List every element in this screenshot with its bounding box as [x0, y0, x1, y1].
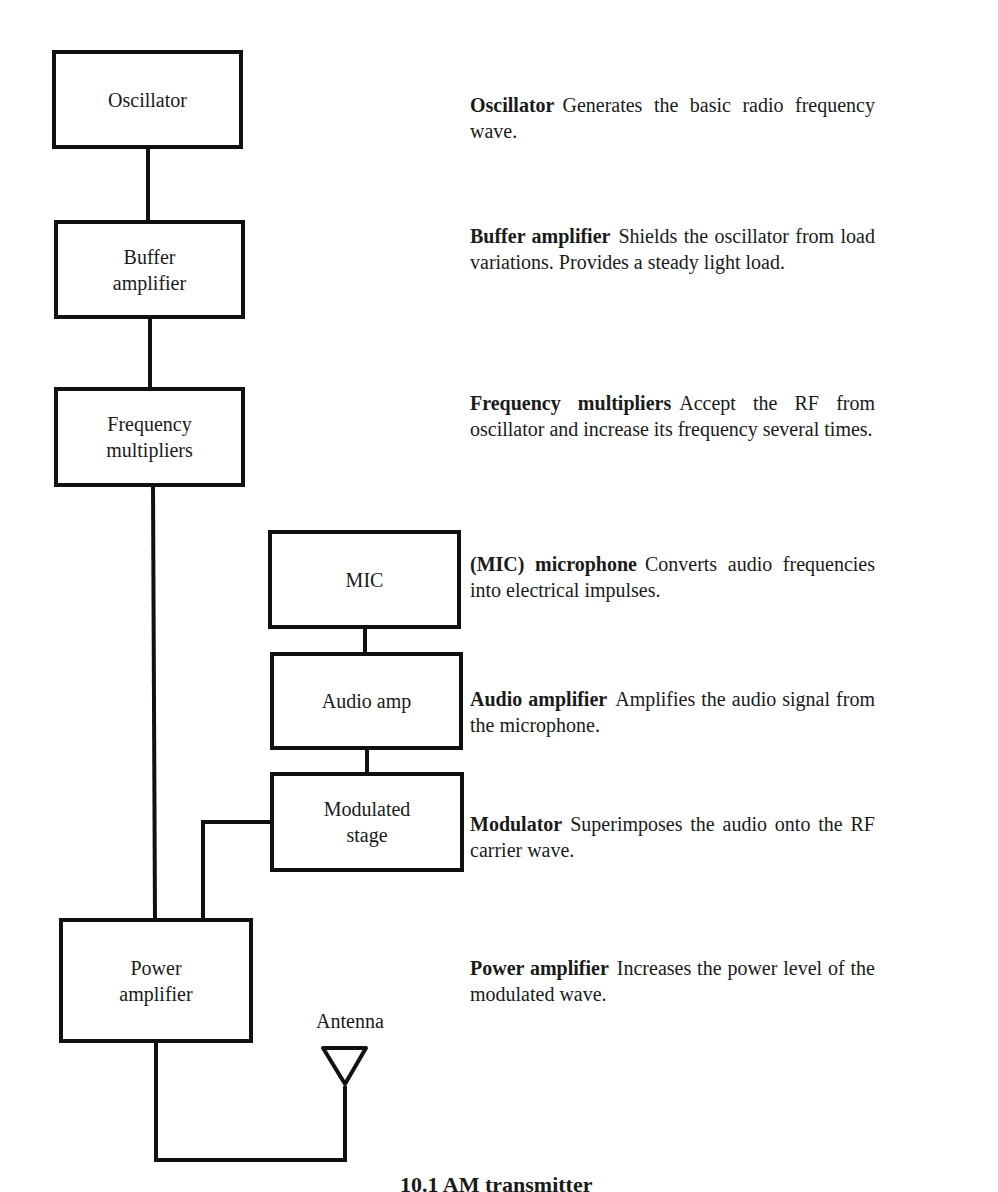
- description-power-amplifier: Power amplifierIncreases the power level…: [470, 955, 875, 1007]
- antenna-icon: [323, 1048, 366, 1086]
- description-buffer-amplifier: Buffer amplifierShields the oscillator f…: [470, 223, 875, 275]
- description-term: (MIC) microphone: [470, 553, 637, 575]
- block-power-amplifier: Power amplifier: [59, 918, 253, 1043]
- antenna-label: Antenna: [316, 1010, 384, 1033]
- block-mic: MIC: [268, 530, 461, 629]
- description-term: Power amplifier: [470, 957, 609, 979]
- description-term: Frequency multipliers: [470, 392, 671, 414]
- block-oscillator: Oscillator: [52, 50, 243, 149]
- figure-caption: 10.1 AM transmitter: [400, 1172, 592, 1192]
- block-frequency-multipliers: Frequency multipliers: [54, 387, 245, 487]
- description-modulator: ModulatorSuperimposes the audio onto the…: [470, 811, 875, 863]
- description-oscillator: OscillatorGenerates the basic radio freq…: [470, 92, 875, 144]
- block-buffer-amplifier: Buffer amplifier: [54, 220, 245, 319]
- block-label: Oscillator: [108, 87, 187, 113]
- block-label: Modulated stage: [324, 796, 411, 848]
- block-label: MIC: [346, 567, 384, 593]
- description-term: Modulator: [470, 813, 562, 835]
- block-label: Frequency multipliers: [106, 411, 193, 463]
- description-audio-amplifier: Audio amplifierAmplifies the audio signa…: [470, 686, 875, 738]
- block-modulated-stage: Modulated stage: [270, 772, 464, 872]
- description-term: Oscillator: [470, 94, 554, 116]
- description-term: Buffer amplifier: [470, 225, 610, 247]
- block-label: Audio amp: [322, 688, 411, 714]
- block-label: Buffer amplifier: [113, 244, 186, 296]
- block-label: Power amplifier: [119, 955, 192, 1007]
- description-microphone: (MIC) microphoneConverts audio frequenci…: [470, 551, 875, 603]
- description-term: Audio amplifier: [470, 688, 607, 710]
- description-frequency-multipliers: Frequency multipliersAccept the RF from …: [470, 390, 875, 442]
- block-audio-amp: Audio amp: [270, 652, 463, 750]
